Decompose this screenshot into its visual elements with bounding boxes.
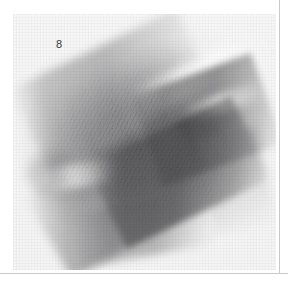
graphite-grain-overlay bbox=[13, 28, 271, 265]
scanned-page: 8 bbox=[0, 0, 288, 285]
graphite-speckle-overlay bbox=[17, 32, 267, 260]
graphite-smudge-body bbox=[14, 28, 265, 262]
stroke-right-edge bbox=[196, 127, 276, 234]
stroke-upper-left bbox=[13, 14, 222, 184]
page-rule-horizontal bbox=[0, 273, 288, 274]
stroke-right-dark bbox=[130, 53, 276, 187]
stroke-left-lobe bbox=[19, 142, 93, 204]
page-rule-vertical bbox=[279, 0, 280, 273]
highlight-left-wedge bbox=[33, 156, 116, 196]
highlight-band-upper bbox=[130, 30, 276, 120]
paper-swatch-field bbox=[13, 14, 276, 270]
sample-number-label: 8 bbox=[56, 38, 62, 50]
highlight-band-right bbox=[180, 78, 273, 124]
stroke-lower-left bbox=[24, 112, 217, 270]
stroke-top-flicks bbox=[105, 15, 231, 121]
stroke-core-dark bbox=[87, 96, 271, 249]
stroke-bottom-tail bbox=[71, 190, 216, 267]
